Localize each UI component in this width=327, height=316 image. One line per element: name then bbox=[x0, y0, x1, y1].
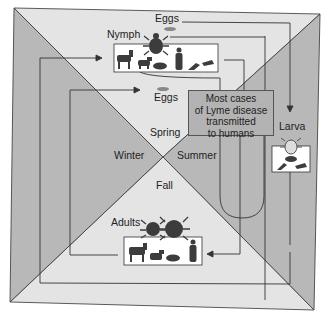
eggs-top-label: Eggs bbox=[155, 13, 179, 24]
lyme-transmission-callout: Most cases of Lyme disease transmitted t… bbox=[188, 90, 274, 136]
nymph-label: Nymph bbox=[107, 29, 140, 40]
season-spring-label: Spring bbox=[150, 127, 180, 138]
callout-line-1: Most cases bbox=[189, 93, 273, 105]
raccoon-icon bbox=[166, 255, 180, 262]
larva-label: Larva bbox=[279, 121, 305, 132]
callout-line-2: of Lyme disease bbox=[189, 105, 273, 117]
callout-line-3: transmitted bbox=[189, 116, 273, 128]
eggs-icon bbox=[164, 27, 176, 31]
callout-line-4: to humans bbox=[189, 128, 273, 140]
season-winter-label: Winter bbox=[114, 150, 144, 161]
season-summer-label: Summer bbox=[177, 150, 217, 161]
mouse-icon bbox=[153, 63, 167, 70]
season-fall-label: Fall bbox=[156, 180, 173, 191]
mouse-icon bbox=[285, 156, 297, 162]
eggs-inner-label: Eggs bbox=[154, 92, 178, 103]
lifecycle-diagram bbox=[0, 0, 327, 316]
adults-label: Adults bbox=[111, 217, 140, 228]
